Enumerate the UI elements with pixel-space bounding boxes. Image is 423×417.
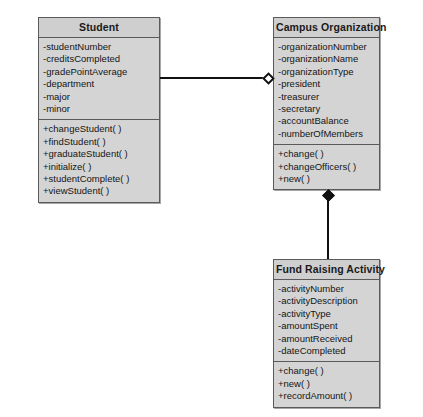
uml-attribute: -numberOfMembers bbox=[274, 128, 379, 140]
uml-attribute: -department bbox=[39, 78, 159, 90]
filled-diamond-composition-marker bbox=[322, 189, 335, 202]
uml-attribute: -organizationName bbox=[274, 53, 379, 65]
uml-operation: +new( ) bbox=[274, 173, 379, 185]
uml-class-student[interactable]: Student -studentNumber -creditsCompleted… bbox=[38, 17, 160, 203]
uml-attribute: -studentNumber bbox=[39, 41, 159, 53]
uml-attribute: -treasurer bbox=[274, 91, 379, 103]
uml-attributes-campus-organization: -organizationNumber -organizationName -o… bbox=[274, 38, 379, 144]
uml-class-campus-organization[interactable]: Campus Organization -organizationNumber … bbox=[273, 17, 380, 190]
uml-operation: +changeOfficers( ) bbox=[274, 161, 379, 173]
uml-attribute: -secretary bbox=[274, 103, 379, 115]
uml-attributes-fund-raising-activity: -activityNumber -activityDescription -ac… bbox=[274, 280, 379, 361]
uml-operations-campus-organization: +change( ) +changeOfficers( ) +new( ) bbox=[274, 144, 379, 189]
uml-operation: +findStudent( ) bbox=[39, 136, 159, 148]
uml-attributes-student: -studentNumber -creditsCompleted -gradeP… bbox=[39, 38, 159, 119]
uml-operation: +graduateStudent( ) bbox=[39, 148, 159, 160]
uml-class-diagram-canvas: Student -studentNumber -creditsCompleted… bbox=[0, 0, 423, 417]
uml-operation: +studentComplete( ) bbox=[39, 173, 159, 185]
uml-attribute: -organizationNumber bbox=[274, 41, 379, 53]
uml-attribute: -organizationType bbox=[274, 66, 379, 78]
uml-attribute: -activityType bbox=[274, 308, 379, 320]
uml-class-title-student: Student bbox=[39, 18, 159, 38]
uml-operation: +viewStudent( ) bbox=[39, 185, 159, 197]
uml-attribute: -amountReceived bbox=[274, 333, 379, 345]
composition-line-campus-organization-fund-raising-activity bbox=[327, 196, 329, 259]
aggregation-line-student-campus-organization bbox=[160, 77, 268, 79]
uml-class-title-campus-organization: Campus Organization bbox=[274, 18, 379, 38]
uml-attribute: -president bbox=[274, 78, 379, 90]
uml-attribute: -accountBalance bbox=[274, 115, 379, 127]
uml-attribute: -gradePointAverage bbox=[39, 66, 159, 78]
uml-operations-student: +changeStudent( ) +findStudent( ) +gradu… bbox=[39, 119, 159, 201]
uml-operation: +changeStudent( ) bbox=[39, 123, 159, 135]
uml-attribute: -minor bbox=[39, 103, 159, 115]
uml-attribute: -activityNumber bbox=[274, 283, 379, 295]
uml-operations-fund-raising-activity: +change( ) +new( ) +recordAmount( ) bbox=[274, 361, 379, 406]
uml-operation: +change( ) bbox=[274, 365, 379, 377]
uml-class-fund-raising-activity[interactable]: Fund Raising Activity -activityNumber -a… bbox=[273, 259, 380, 408]
uml-class-title-fund-raising-activity: Fund Raising Activity bbox=[274, 260, 379, 280]
uml-attribute: -major bbox=[39, 91, 159, 103]
uml-attribute: -dateCompleted bbox=[274, 345, 379, 357]
uml-attribute: -activityDescription bbox=[274, 295, 379, 307]
uml-operation: +change( ) bbox=[274, 148, 379, 160]
uml-operation: +initialize( ) bbox=[39, 161, 159, 173]
uml-attribute: -creditsCompleted bbox=[39, 53, 159, 65]
uml-operation: +recordAmount( ) bbox=[274, 390, 379, 402]
uml-operation: +new( ) bbox=[274, 378, 379, 390]
uml-attribute: -amountSpent bbox=[274, 320, 379, 332]
